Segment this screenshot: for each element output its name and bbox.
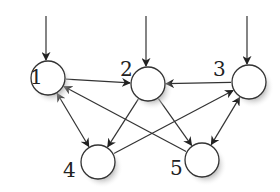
node-label: 1 [30,65,43,89]
edge-3-2 [166,82,231,83]
node-label: 4 [63,158,76,182]
node-5: 5 [170,143,227,186]
node-label: 2 [120,57,133,81]
node-circle [185,143,219,177]
edge-3-5 [211,97,239,144]
nodes: 12345 [30,57,274,188]
node-4: 4 [63,145,123,188]
node-circle [131,67,165,101]
node-label: 3 [213,57,226,81]
node-circle [232,65,266,99]
node-circle [81,145,115,179]
node-label: 5 [170,156,183,180]
node-1: 1 [30,61,73,104]
graph-diagram: 12345 [0,0,280,192]
